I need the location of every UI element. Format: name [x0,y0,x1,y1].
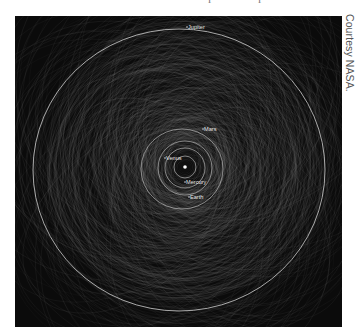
sun-icon [183,165,187,169]
image-credit: Courtesy NASA. [344,14,356,92]
orbit-canvas: Mercury Venus Earth Mars Jupiter [15,16,342,327]
asteroid-orbit-web [15,16,342,327]
clipped-caption-fragment: i [208,0,211,5]
solar-system-orbit-diagram: Mercury Venus Earth Mars Jupiter [15,16,342,327]
planet-label-mercury: Mercury [186,179,206,185]
planet-label-mars: Mars [204,126,217,132]
planet-label-venus: Venus [166,155,182,161]
planet-label-earth: Earth [190,194,203,200]
clipped-caption-fragment: i [258,0,261,5]
planet-label-jupiter: Jupiter [188,24,205,30]
